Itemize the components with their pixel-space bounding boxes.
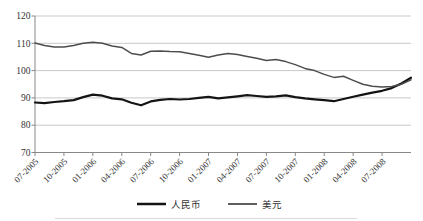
legend-usd-label: 美元 (262, 199, 282, 210)
x-axis-label: 04-2008 (330, 156, 359, 185)
x-axis-label: 07-2007 (244, 156, 273, 185)
legend-rmb-label: 人民币 (171, 200, 201, 210)
y-axis-label: 120 (16, 11, 31, 21)
y-axis-label: 90 (21, 93, 31, 103)
y-axis-label: 80 (21, 120, 31, 130)
y-axis-label: 100 (16, 66, 31, 76)
y-axis-label: 110 (17, 39, 31, 49)
rmb-series-line (35, 78, 411, 106)
x-axis-label: 07-2008 (359, 156, 388, 185)
x-axis-label: 07-2006 (128, 156, 157, 185)
x-axis-label: 01-2007 (186, 156, 215, 185)
y-axis-label: 70 (21, 148, 31, 158)
x-axis-label: 01-2006 (70, 156, 99, 185)
x-axis-label: 01-2008 (301, 156, 330, 185)
x-axis-label: 10-2006 (157, 156, 186, 185)
x-axis-label: 04-2007 (215, 156, 244, 185)
x-axis-label: 04-2006 (99, 156, 128, 185)
x-axis-label: 07-2005 (12, 156, 41, 185)
usd-series-line (35, 42, 411, 87)
chart-canvas: 12011010090807007-200510-200501-200604-2… (0, 0, 423, 221)
x-axis-label: 10-2005 (41, 156, 70, 185)
exchange-rate-index-chart: 12011010090807007-200510-200501-200604-2… (0, 0, 423, 221)
x-axis-label: 10-2007 (272, 156, 301, 185)
